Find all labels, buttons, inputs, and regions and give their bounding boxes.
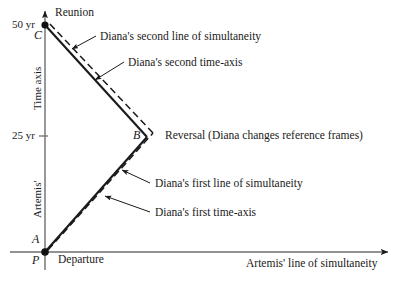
event-label-A: A (32, 233, 39, 245)
vertical-axis-secondary-name: Artemis' (32, 181, 43, 218)
event-label-C: C (34, 29, 42, 41)
event-label-P: P (32, 254, 39, 266)
tick-label-50yr: 50 yr (12, 19, 35, 30)
leader-second-simultaneity (72, 36, 96, 49)
annotation-reversal: Reversal (Diana changes reference frames… (165, 130, 363, 142)
departure-label: Departure (58, 254, 104, 266)
annotation-second-simultaneity: Diana's second line of simultaneity (100, 31, 261, 43)
leader-second-time-axis (95, 62, 124, 80)
diagram-canvas (0, 0, 405, 286)
tick-label-25yr: 25 yr (12, 130, 35, 141)
worldline-first-simultaneity (48, 133, 153, 250)
vertical-axis-name: Time axis (32, 67, 43, 110)
event-dot-C (41, 21, 48, 28)
annotation-first-time-axis: Diana's first time-axis (155, 207, 256, 219)
spacetime-diagram-figure: 50 yr 25 yr Reunion C B A P Departure Re… (0, 0, 405, 286)
leader-first-simultaneity (122, 170, 150, 183)
event-label-B: B (133, 129, 140, 141)
reunion-label: Reunion (55, 7, 94, 19)
leader-first-time-axis (105, 196, 150, 212)
annotation-first-simultaneity: Diana's first line of simultaneity (155, 178, 303, 190)
horizontal-axis-caption: Artemis' line of simultaneity (246, 258, 377, 270)
worldline-first-time-axis (45, 137, 147, 252)
annotation-second-time-axis: Diana's second time-axis (128, 57, 242, 69)
event-dot-A (41, 248, 49, 256)
